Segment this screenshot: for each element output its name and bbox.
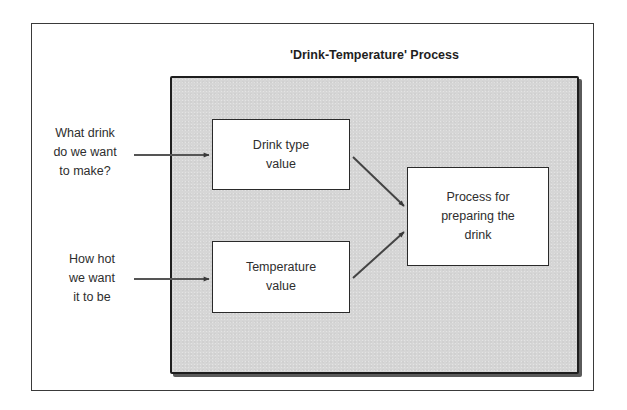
temperature-value-box: Temperature value <box>212 241 350 313</box>
input-label-temperature: How hot we want it to be <box>47 250 137 307</box>
process-box-label: Process for preparing the drink <box>441 188 515 245</box>
process-box: Process for preparing the drink <box>407 167 549 266</box>
diagram-title: 'Drink-Temperature' Process <box>170 46 579 64</box>
drink-type-value-label: Drink type value <box>253 136 309 174</box>
temperature-value-label: Temperature value <box>246 258 316 296</box>
input-label-drink: What drink do we want to make? <box>40 124 130 181</box>
drink-type-value-box: Drink type value <box>212 119 350 190</box>
